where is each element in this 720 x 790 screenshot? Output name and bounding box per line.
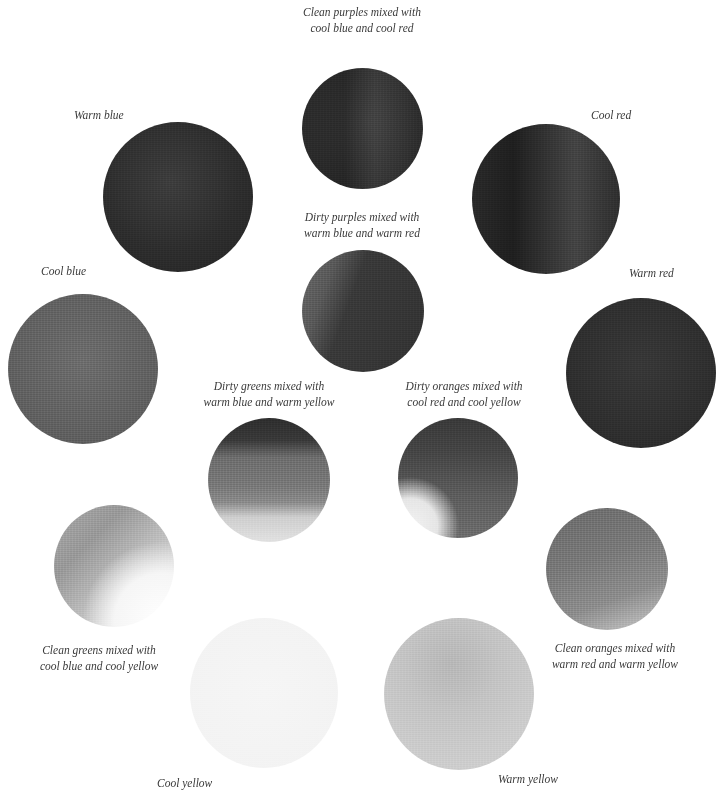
swatch-dirty-purples	[302, 250, 424, 372]
label-cool-red: Cool red	[591, 107, 631, 123]
watercolor-texture	[566, 298, 716, 448]
watercolor-texture	[190, 618, 338, 768]
watercolor-texture	[103, 122, 253, 272]
swatch-clean-greens	[54, 505, 174, 627]
watercolor-texture	[8, 294, 158, 444]
label-cool-blue: Cool blue	[41, 263, 86, 279]
swatch-dirty-greens	[208, 418, 330, 542]
label-warm-yellow: Warm yellow	[498, 771, 558, 787]
swatch-warm-yellow	[384, 618, 534, 770]
swatch-warm-blue	[103, 122, 253, 272]
label-warm-blue: Warm blue	[74, 107, 124, 123]
watercolor-texture	[302, 68, 423, 189]
label-dirty-oranges: Dirty oranges mixed with cool red and co…	[398, 378, 530, 410]
label-clean-purples: Clean purples mixed with cool blue and c…	[297, 4, 427, 36]
label-dirty-purples: Dirty purples mixed with warm blue and w…	[297, 209, 427, 241]
label-warm-red: Warm red	[629, 265, 674, 281]
label-clean-oranges: Clean oranges mixed with warm red and wa…	[549, 640, 681, 672]
watercolor-texture	[54, 505, 174, 627]
swatch-clean-purples	[302, 68, 423, 189]
watercolor-texture	[472, 124, 620, 274]
label-clean-greens: Clean greens mixed with cool blue and co…	[34, 642, 164, 674]
watercolor-texture	[384, 618, 534, 770]
swatch-clean-oranges	[546, 508, 668, 630]
swatch-cool-blue	[8, 294, 158, 444]
swatch-warm-red	[566, 298, 716, 448]
swatch-cool-yellow	[190, 618, 338, 768]
swatch-cool-red	[472, 124, 620, 274]
label-dirty-greens: Dirty greens mixed with warm blue and wa…	[196, 378, 342, 410]
swatch-dirty-oranges	[398, 418, 518, 538]
watercolor-texture	[546, 508, 668, 630]
label-cool-yellow: Cool yellow	[157, 775, 212, 790]
watercolor-texture	[302, 250, 424, 372]
watercolor-texture	[208, 418, 330, 542]
watercolor-texture	[398, 418, 518, 538]
